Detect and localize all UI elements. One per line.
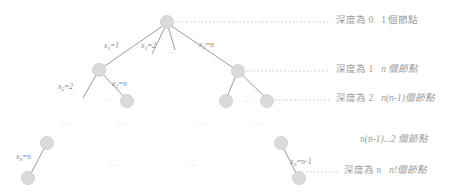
- depth-label-2: 深度為 2n(n-1)個節點: [336, 94, 435, 104]
- depth-label-0-count: 1 個節點: [381, 15, 418, 25]
- ellipsis-row-c: ...: [196, 118, 206, 127]
- node-bottomright-top: [275, 137, 288, 150]
- ellipsis-level1-middle: ...: [168, 46, 178, 55]
- node-level1-right: [232, 65, 245, 78]
- edge-label-x1-eq-1: x1=1: [104, 42, 119, 51]
- depth-label-n-depth: 深度為 n: [344, 165, 381, 175]
- edge-label-x1-eq-1-value: 1: [115, 41, 119, 50]
- edge-label-xn-eq-n: xn=n: [16, 153, 31, 162]
- node-root: [161, 16, 174, 29]
- count-label-second-last: n(n-1)...2 個節點: [360, 135, 428, 145]
- node-bottomright-leaf: [293, 172, 306, 185]
- depth-label-1-depth: 深度為 1: [336, 64, 373, 74]
- edge-label-x1-eq-n: x1=n: [199, 41, 214, 50]
- depth-label-1-count: n 個節點: [381, 64, 418, 74]
- depth-label-2-depth: 深度為 2: [336, 93, 373, 103]
- edge-label-x1-eq-n-value: n: [210, 40, 214, 49]
- edge-label-x2-eq-n: x1=n: [112, 80, 127, 89]
- depth-label-n-count: n!個節點: [389, 165, 427, 175]
- node-level2-left: [121, 95, 134, 108]
- ellipsis-row-b: ...: [118, 118, 128, 127]
- edge-label-x1-eq-2: x1=2: [141, 42, 156, 51]
- depth-label-n: 深度為 nn!個節點: [344, 166, 427, 176]
- ellipsis-level2-right: ...: [243, 95, 253, 104]
- depth-label-2-count: n(n-1)個節點: [381, 93, 435, 103]
- depth-label-0: 深度為 01 個節點: [336, 16, 418, 26]
- edge-label-x2-eq-n-value: n: [123, 79, 127, 88]
- ellipsis-row-a: ...: [62, 118, 72, 127]
- ellipsis-bottom-right: ...: [188, 159, 198, 168]
- ellipsis-row-d: ...: [252, 118, 262, 127]
- edge-label-x2-eq-2: x2=2: [58, 83, 73, 92]
- node-level1-left: [93, 64, 106, 77]
- edge-label-xn-eq-n-minus-1: xn=n-1: [290, 158, 312, 167]
- edge-label-xn-eq-n-value: n: [27, 152, 31, 161]
- node-level2-mid: [220, 95, 233, 108]
- edge-label-x1-eq-2-value: 2: [152, 41, 156, 50]
- ellipsis-bottom-left: ...: [110, 159, 120, 168]
- node-level2-right: [261, 95, 274, 108]
- node-bottomleft-leaf: [22, 172, 35, 185]
- edge-label-x2-eq-2-value: 2: [69, 82, 73, 91]
- depth-label-1: 深度為 1n 個節點: [336, 65, 418, 75]
- ellipsis-level2-left: ...: [104, 93, 114, 102]
- depth-label-0-depth: 深度為 0: [336, 15, 373, 25]
- edge-label-xn-eq-n-minus-1-value: n-1: [301, 157, 312, 166]
- node-bottomleft-top: [41, 137, 54, 150]
